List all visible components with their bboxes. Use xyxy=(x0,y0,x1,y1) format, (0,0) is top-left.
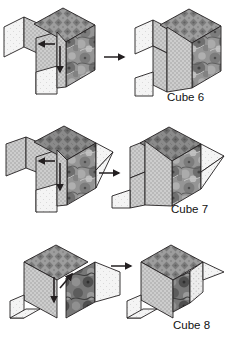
cube-7-label: Cube 7 xyxy=(171,203,208,215)
result7-panel-dotted-lower xyxy=(130,172,145,208)
result-panel-dotted-lower xyxy=(153,46,167,92)
cube-folding-diagram: Cube 6 xyxy=(0,0,233,343)
face7-left-dotted xyxy=(57,150,67,206)
cube-8-label: Cube 8 xyxy=(173,319,210,331)
cube-folding-figure: Cube 6 xyxy=(0,0,233,343)
face-left-dotted xyxy=(57,32,66,88)
cube-6-label: Cube 6 xyxy=(167,91,204,103)
